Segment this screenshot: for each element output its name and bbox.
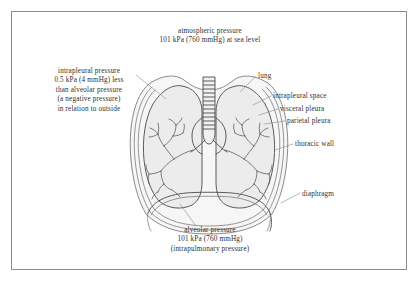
lung-label: lung <box>258 72 271 81</box>
alveolar-pressure-label: alveolar pressure 101 kPa (760 mmHg) (in… <box>122 226 298 254</box>
atmospheric-pressure-label: atmospheric pressure 101 kPa (760 mmHg) … <box>105 27 315 46</box>
leader-diaphragm <box>281 193 300 203</box>
figure-root: .ln { fill:none; stroke:#4a4a4a; stroke-… <box>0 0 419 282</box>
diaphragm-label: diaphragm <box>302 190 334 199</box>
thoracic-wall-label: thoracic wall <box>295 140 334 149</box>
visceral-pleura-label: visceral pleura <box>280 105 324 114</box>
intrapleural-pressure-label: intrapleural pressure 0.5 kPa (4 mmHg) l… <box>28 67 150 114</box>
intrapleural-space-label: intrapleural space <box>273 92 327 101</box>
parietal-pleura-label: parietal pleura <box>287 117 331 126</box>
